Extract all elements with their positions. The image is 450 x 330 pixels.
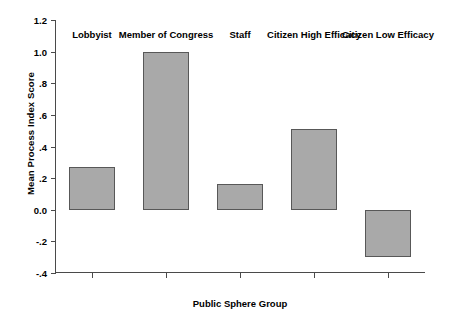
y-axis-tick: [51, 210, 56, 211]
y-axis-tick-label: 1.0: [34, 46, 47, 57]
y-axis-tick: [51, 83, 56, 84]
y-axis-tick-label: 0.0: [34, 204, 47, 215]
y-axis-tick-label: -.4: [36, 268, 47, 279]
bar: [291, 129, 337, 210]
plot-area: 1.21.0.8.6.4.20.0-.2-.4LobbyistMember of…: [55, 20, 425, 273]
y-axis-tick: [51, 241, 56, 242]
y-axis-tick-label: .4: [39, 141, 47, 152]
y-axis-tick: [51, 115, 56, 116]
y-axis-tick-label: -.2: [36, 236, 47, 247]
x-axis-tick: [240, 273, 241, 278]
bar: [143, 52, 189, 210]
y-axis-tick-label: .8: [39, 78, 47, 89]
y-axis-tick: [51, 52, 56, 53]
y-axis-title: Mean Process Index Score: [25, 44, 36, 224]
x-axis-tick-label: Member of Congress: [119, 29, 214, 40]
x-axis-tick-label: Staff: [229, 29, 250, 40]
y-axis-tick: [51, 147, 56, 148]
y-axis-tick-label: .2: [39, 173, 47, 184]
y-axis-tick: [51, 20, 56, 21]
x-axis-tick: [388, 273, 389, 278]
x-axis-tick-label: Lobbyist: [72, 29, 112, 40]
chart-figure: Mean Process Index Score 1.21.0.8.6.4.20…: [0, 0, 450, 330]
bar: [69, 167, 115, 210]
y-axis-tick: [51, 273, 56, 274]
bar: [365, 210, 411, 257]
x-axis-title: Public Sphere Group: [55, 298, 425, 309]
x-axis-tick: [166, 273, 167, 278]
bar: [217, 184, 263, 209]
x-axis-tick: [314, 273, 315, 278]
x-axis-tick-label: Citizen Low Efficacy: [342, 29, 434, 40]
x-axis-tick: [92, 273, 93, 278]
y-axis-tick-label: .6: [39, 109, 47, 120]
y-axis-tick-label: 1.2: [34, 15, 47, 26]
y-axis-tick: [51, 178, 56, 179]
